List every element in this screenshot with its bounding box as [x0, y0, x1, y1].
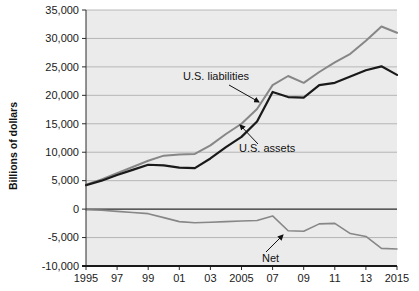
chart-container: -10,000-5,00005,00010,00015,00020,00025,…	[0, 0, 419, 291]
y-tick-label-35000: 35,000	[45, 4, 79, 16]
annotation-label-us-liabilities: U.S. liabilities	[183, 70, 250, 82]
annotation-label-us-assets: U.S. assets	[239, 142, 296, 154]
y-tick-label--5000: -5,000	[48, 231, 79, 243]
y-tick-label-0: 0	[73, 203, 79, 215]
y-tick-label-15000: 15,000	[45, 118, 79, 130]
y-tick-label-10000: 10,000	[45, 146, 79, 158]
x-tick-label-2013: 13	[360, 272, 372, 284]
x-tick-label-1997: 97	[111, 272, 123, 284]
x-tick-label-1995: 1995	[74, 272, 98, 284]
y-tick-label-25000: 25,000	[45, 61, 79, 73]
y-tick-label-20000: 20,000	[45, 89, 79, 101]
y-tick-label-5000: 5,000	[51, 174, 79, 186]
x-tick-label-1999: 99	[142, 272, 154, 284]
x-tick-label-2003: 03	[204, 272, 216, 284]
y-axis-title: Billions of dollars	[7, 102, 19, 190]
x-tick-label-2011: 11	[329, 272, 340, 284]
x-tick-label-2009: 09	[298, 272, 310, 284]
x-tick-label-2015: 2015	[385, 272, 409, 284]
y-tick-label-30000: 30,000	[45, 32, 79, 44]
x-tick-label-2005: 2005	[229, 272, 253, 284]
x-tick-label-2007: 07	[266, 272, 278, 284]
x-tick-label-2001: 01	[173, 272, 185, 284]
x-axis-tick-labels: 1995979901032005070911132015	[74, 272, 409, 284]
annotation-label-net: Net	[262, 252, 279, 264]
y-tick-marks	[82, 10, 86, 266]
billions-of-dollars-line-chart: -10,000-5,00005,00010,00015,00020,00025,…	[0, 0, 419, 291]
y-axis-tick-labels: -10,000-5,00005,00010,00015,00020,00025,…	[42, 4, 79, 272]
y-tick-label--10000: -10,000	[42, 260, 79, 272]
